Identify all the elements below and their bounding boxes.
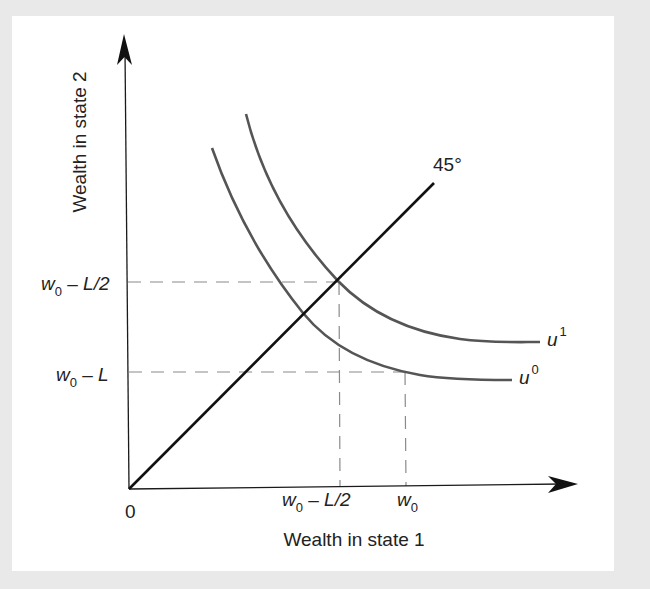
origin-label: 0 xyxy=(125,501,136,522)
curve-label-u0: u0 xyxy=(519,362,539,388)
dashed-line-x-w0 xyxy=(405,372,406,486)
y-axis xyxy=(125,50,129,489)
indifference-curve-u1 xyxy=(246,114,540,342)
curve-label-u1: u1 xyxy=(547,324,567,350)
y-tick-label-w0-minus-L: w0 – L xyxy=(56,364,109,390)
indifference-curve-u0 xyxy=(212,148,512,380)
y-tick-label-w0-minus-half-L: w0 – L/2 xyxy=(41,273,110,299)
x-axis-title: Wealth in state 1 xyxy=(283,529,424,550)
certainty-line-45 xyxy=(129,183,434,489)
x-tick-label-w0-minus-half-L: w0 – L/2 xyxy=(282,489,351,515)
y-axis-title: Wealth in state 2 xyxy=(69,71,90,212)
insurance-diagram: 45° u1 u0 w0 – L/2 w0 – L 0 w0 – L/2 w0 … xyxy=(12,16,614,571)
x-tick-label-w0: w0 xyxy=(397,489,418,515)
certainty-line-label: 45° xyxy=(433,154,462,175)
dashed-line-x-w0-minus-half-L xyxy=(339,282,340,486)
figure-panel: 45° u1 u0 w0 – L/2 w0 – L 0 w0 – L/2 w0 … xyxy=(12,16,614,571)
